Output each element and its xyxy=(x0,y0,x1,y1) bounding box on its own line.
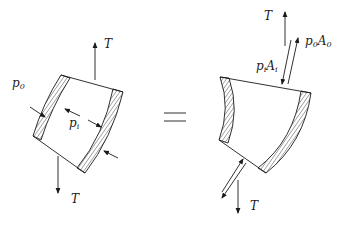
pipe-equilibrium-diagram: T T p0 pi T T p0A0 piAi xyxy=(0,0,348,225)
left-pipe-wall-left xyxy=(33,75,70,140)
left-pipe-top-edge xyxy=(61,75,123,92)
inner-pressure-arrow-right-icon xyxy=(88,120,101,127)
left-pipe-figure: T T p0 pi xyxy=(12,37,123,206)
label-inner-pressure: pi xyxy=(69,116,80,131)
label-tension-bottom: T xyxy=(71,192,80,206)
label-inner-force: piAi xyxy=(256,59,278,74)
right-pipe-wall-right xyxy=(258,91,311,173)
inner-force-bottom-arrow-icon xyxy=(222,159,243,192)
label-tension-top: T xyxy=(104,37,113,51)
outer-force-bottom-arrow-icon xyxy=(222,163,246,198)
left-pipe-wall-right xyxy=(77,89,123,173)
left-pipe-bottom-edge xyxy=(33,136,85,173)
outer-pressure-arrow-right-icon xyxy=(104,151,118,158)
right-pipe-wall-left xyxy=(219,77,234,143)
label-outer-pressure: p0 xyxy=(12,76,25,91)
equals-sign xyxy=(164,113,186,121)
label-tension-top: T xyxy=(264,9,273,23)
right-pipe-top-edge xyxy=(220,77,311,93)
outer-force-arrow-icon xyxy=(288,38,298,84)
label-tension-bottom: T xyxy=(250,199,259,213)
label-outer-force: p0A0 xyxy=(305,34,332,49)
right-pipe-figure: T T p0A0 piAi xyxy=(219,9,332,213)
inner-pressure-arrow-left-icon xyxy=(65,109,80,116)
